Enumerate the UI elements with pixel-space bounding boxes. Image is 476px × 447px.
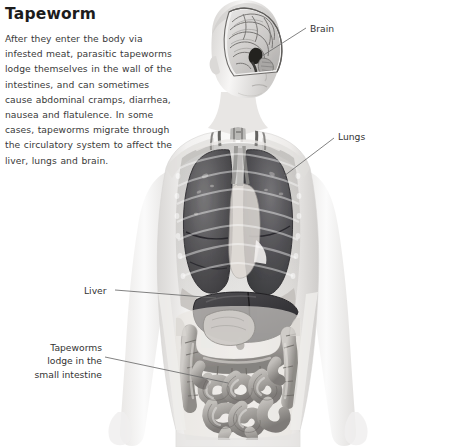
leader-line-liver [115,290,216,298]
leader-line-lungs [284,138,334,176]
callout-label-lungs: Lungs [338,131,365,144]
leader-line-tapeworms [105,357,228,383]
callout-label-tapeworms: Tapeworms lodge in the small intestine [22,341,102,381]
illustration-canvas: Tapeworm After they enter the body via i… [0,0,476,447]
callout-label-liver: Liver [84,285,107,298]
leader-line-brain [262,28,306,56]
callout-label-brain: Brain [310,23,334,36]
